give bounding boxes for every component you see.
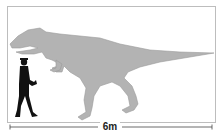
human-silhouette [15, 58, 38, 117]
scale-label: 6m [100, 122, 120, 132]
size-comparison-diagram [0, 0, 218, 132]
dinosaur-silhouette [10, 28, 214, 120]
